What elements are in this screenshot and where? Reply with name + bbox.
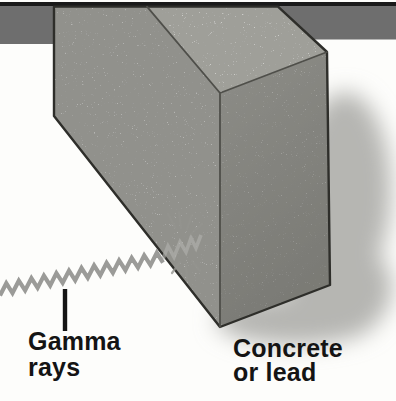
figure-gamma-shielding: Gamma rays Concrete or lead [0,0,396,401]
material-label-line2: or lead [233,358,316,386]
gamma-label-line1: Gamma [28,327,122,355]
burst-ray [186,264,187,278]
diagram-canvas: Gamma rays Concrete or lead [0,0,396,401]
gamma-label-line2: rays [28,353,80,381]
